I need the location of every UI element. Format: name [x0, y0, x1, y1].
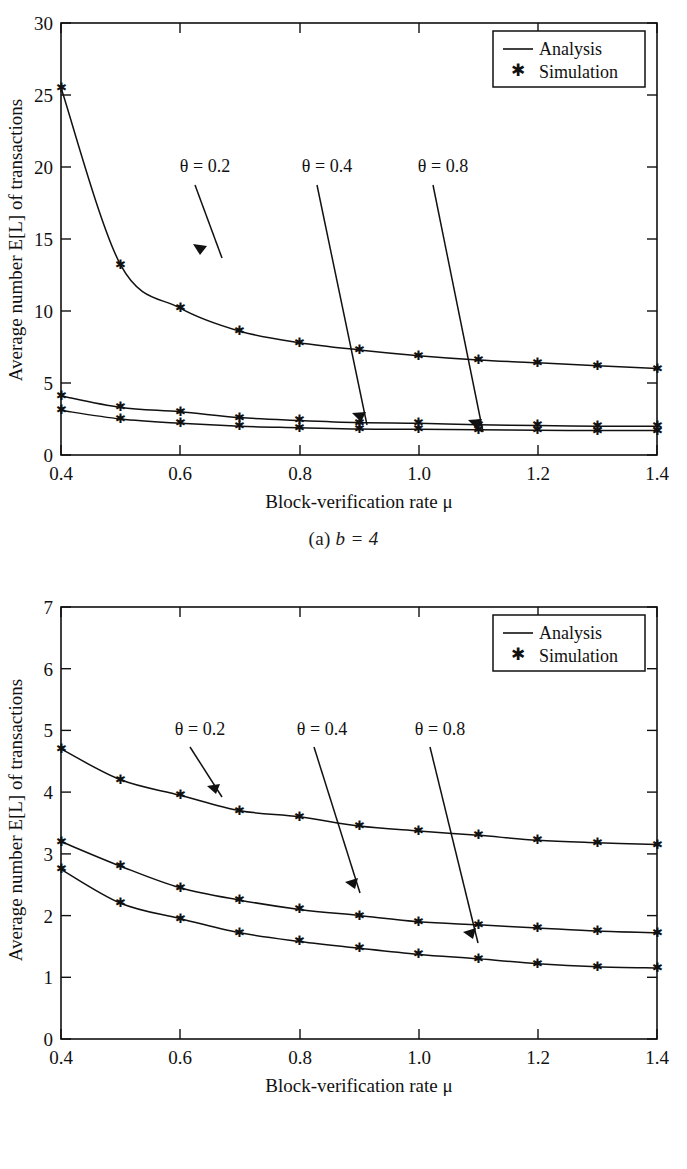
x-tick-label: 0.4 [49, 463, 73, 484]
simulation-marker: ✱ [532, 956, 543, 971]
y-tick-labels-a: 0 5 10 15 20 25 30 [34, 13, 53, 466]
simulation-marker: ✱ [294, 420, 305, 435]
simulation-marker: ✱ [56, 834, 67, 849]
x-tick-label: 1.4 [645, 1047, 669, 1068]
legend-analysis-label-a: Analysis [539, 39, 602, 59]
simulation-marker: ✱ [175, 880, 186, 895]
y-axis-label-b: Average number E[L] of transactions [5, 679, 26, 961]
caption-prefix-a: (a) [309, 528, 331, 549]
simulation-marker: ✱ [115, 411, 126, 426]
y-tick-label: 2 [44, 906, 54, 927]
y-tick-label: 15 [34, 229, 53, 250]
caption-expression-a: b = 4 [336, 528, 379, 549]
simulation-marker: ✱ [294, 933, 305, 948]
y-tick-labels-b: 0 1 2 3 4 5 6 7 [44, 597, 54, 1050]
asterisk-icon: ✱ [511, 61, 525, 80]
chart-panel-a: Average number E[L] of transactions [0, 0, 687, 575]
simulation-marker: ✱ [354, 908, 365, 923]
simulation-marker: ✱ [413, 348, 424, 363]
simulation-marker: ✱ [354, 818, 365, 833]
simulation-marker: ✱ [413, 914, 424, 929]
simulation-marker: ✱ [294, 809, 305, 824]
simulation-marker: ✱ [115, 772, 126, 787]
y-tick-label: 0 [44, 1029, 54, 1050]
x-tick-label: 0.8 [288, 463, 312, 484]
y-tick-label: 30 [34, 13, 53, 34]
y-tick-label: 10 [34, 301, 53, 322]
simulation-marker: ✱ [294, 335, 305, 350]
plot-a-svg: Average number E[L] of transactions [0, 0, 687, 575]
panel-caption-a: (a) b = 4 [0, 528, 687, 550]
simulation-marker: ✱ [592, 835, 603, 850]
legend-analysis-label-b: Analysis [539, 623, 602, 643]
simulation-marker: ✱ [354, 421, 365, 436]
legend-b: Analysis ✱ Simulation [493, 615, 645, 671]
simulation-marker: ✱ [473, 827, 484, 842]
simulation-marker: ✱ [652, 361, 663, 376]
series-line [61, 88, 657, 369]
simulation-marker: ✱ [652, 960, 663, 975]
simulation-marker: ✱ [592, 358, 603, 373]
simulation-marker: ✱ [175, 415, 186, 430]
data-series-group-b: ✱✱✱✱✱✱✱✱✱✱✱✱✱✱✱✱✱✱✱✱✱✱✱✱✱✱✱✱✱✱✱✱✱ [56, 741, 663, 975]
y-tick-label: 25 [34, 85, 53, 106]
x-tick-label: 1.0 [407, 1047, 431, 1068]
simulation-marker: ✱ [56, 80, 67, 95]
simulation-marker: ✱ [234, 892, 245, 907]
legend-a: Analysis ✱ Simulation [493, 31, 645, 87]
figure-container: Average number E[L] of transactions [0, 0, 687, 1169]
annotation-label: θ = 0.8 [418, 156, 468, 176]
y-tick-label: 1 [44, 967, 54, 988]
x-tick-label: 1.0 [407, 463, 431, 484]
x-axis-label-b: Block-verification rate μ [265, 1075, 452, 1096]
plot-b-svg: Average number E[L] of transactions [0, 575, 687, 1169]
simulation-marker: ✱ [115, 858, 126, 873]
simulation-marker: ✱ [413, 823, 424, 838]
annotation-label: θ = 0.8 [415, 719, 465, 739]
simulation-marker: ✱ [175, 787, 186, 802]
simulation-marker: ✱ [234, 803, 245, 818]
simulation-marker: ✱ [652, 925, 663, 940]
x-tick-label: 0.6 [168, 463, 192, 484]
simulation-marker: ✱ [532, 832, 543, 847]
y-tick-label: 7 [44, 597, 54, 618]
simulation-marker: ✱ [234, 323, 245, 338]
y-tick-label: 5 [44, 720, 54, 741]
simulation-marker: ✱ [56, 402, 67, 417]
simulation-marker: ✱ [592, 959, 603, 974]
simulation-marker: ✱ [592, 423, 603, 438]
simulation-marker: ✱ [115, 257, 126, 272]
y-tick-label: 4 [44, 782, 54, 803]
asterisk-icon: ✱ [511, 645, 525, 664]
annotation-arrows-a [193, 185, 483, 432]
simulation-marker: ✱ [652, 837, 663, 852]
annotation-labels-b: θ = 0.2 θ = 0.4 θ = 0.8 [175, 719, 465, 739]
simulation-marker: ✱ [652, 423, 663, 438]
simulation-marker: ✱ [532, 355, 543, 370]
annotation-label: θ = 0.2 [180, 156, 230, 176]
simulation-marker: ✱ [532, 422, 543, 437]
simulation-marker: ✱ [354, 342, 365, 357]
simulation-marker: ✱ [234, 925, 245, 940]
legend-simulation-label-b: Simulation [539, 646, 618, 666]
annotation-labels-a: θ = 0.2 θ = 0.4 θ = 0.8 [180, 156, 468, 176]
simulation-marker: ✱ [473, 352, 484, 367]
simulation-marker: ✱ [532, 920, 543, 935]
x-axis-label-a: Block-verification rate μ [265, 491, 452, 512]
simulation-marker: ✱ [473, 951, 484, 966]
y-tick-label: 5 [44, 373, 54, 394]
x-tick-label: 0.6 [168, 1047, 192, 1068]
x-tick-label: 0.4 [49, 1047, 73, 1068]
simulation-marker: ✱ [115, 895, 126, 910]
legend-simulation-label-a: Simulation [539, 62, 618, 82]
simulation-marker: ✱ [413, 946, 424, 961]
x-tick-label: 1.4 [645, 463, 669, 484]
annotation-label: θ = 0.4 [302, 156, 352, 176]
y-tick-label: 3 [44, 844, 54, 865]
simulation-marker: ✱ [175, 300, 186, 315]
simulation-marker: ✱ [56, 388, 67, 403]
chart-panel-b: Average number E[L] of transactions [0, 575, 687, 1169]
x-tick-label: 1.2 [526, 1047, 550, 1068]
y-axis-label-a-text: Average number E[L] of transactions [5, 99, 26, 381]
y-tick-label: 20 [34, 157, 53, 178]
